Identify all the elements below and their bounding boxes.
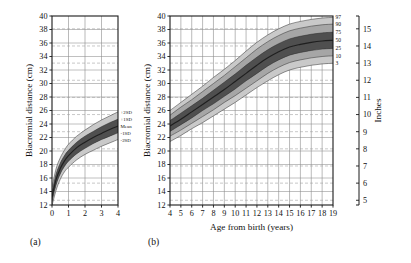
y-axis-title: Biacromial distance (cm) [142, 64, 152, 157]
y-axis-right-title: Inches [373, 98, 383, 122]
svg-text:12: 12 [39, 201, 47, 210]
curve-label: 25 [336, 45, 342, 51]
curve-label: 50 [336, 37, 342, 43]
svg-text:1: 1 [66, 209, 70, 218]
svg-text:15: 15 [285, 209, 293, 218]
svg-text:5: 5 [179, 209, 183, 218]
svg-text:11: 11 [363, 93, 371, 102]
y-axis-title: Biacromial distance (cm) [24, 64, 34, 157]
svg-text:32: 32 [157, 66, 165, 75]
svg-text:40: 40 [157, 12, 165, 21]
curve-label: 90 [336, 21, 342, 27]
svg-text:13: 13 [264, 209, 272, 218]
svg-text:3: 3 [99, 209, 103, 218]
svg-text:16: 16 [157, 174, 165, 183]
curve-label: 10 [336, 53, 342, 59]
svg-text:12: 12 [253, 209, 261, 218]
svg-text:10: 10 [363, 110, 371, 119]
svg-text:8: 8 [211, 209, 215, 218]
x-axis-title: Age from birth (years) [210, 222, 293, 232]
figure-biacromial-growth-charts: 12141618202224262830323436384001234Biacr… [0, 0, 411, 263]
svg-text:34: 34 [39, 52, 47, 61]
svg-text:9: 9 [222, 209, 226, 218]
svg-text:16: 16 [39, 174, 47, 183]
svg-text:14: 14 [157, 187, 165, 196]
panel-b: 1214161820222426283032343638404567891011… [118, 0, 411, 263]
panel-label: (b) [148, 237, 159, 248]
svg-text:6: 6 [363, 179, 367, 188]
svg-text:7: 7 [363, 162, 367, 171]
svg-text:40: 40 [39, 12, 47, 21]
svg-text:30: 30 [39, 79, 47, 88]
svg-text:5: 5 [363, 196, 367, 205]
svg-text:18: 18 [39, 160, 47, 169]
svg-text:14: 14 [363, 42, 371, 51]
svg-text:38: 38 [157, 25, 165, 34]
panel-b-plot: 1214161820222426283032343638404567891011… [118, 0, 411, 263]
curve-label: 75 [336, 29, 342, 35]
curve-label: 3 [336, 60, 339, 66]
svg-text:15: 15 [363, 25, 371, 34]
svg-text:12: 12 [363, 76, 371, 85]
svg-text:19: 19 [329, 209, 337, 218]
svg-text:20: 20 [39, 147, 47, 156]
svg-text:7: 7 [201, 209, 205, 218]
svg-text:8: 8 [363, 145, 367, 154]
curve-label: 97 [336, 14, 342, 20]
svg-text:14: 14 [39, 187, 47, 196]
svg-text:18: 18 [157, 160, 165, 169]
svg-text:24: 24 [39, 120, 47, 129]
svg-text:9: 9 [363, 128, 367, 137]
svg-text:24: 24 [157, 120, 165, 129]
svg-text:28: 28 [157, 93, 165, 102]
svg-text:28: 28 [39, 93, 47, 102]
svg-text:30: 30 [157, 79, 165, 88]
svg-text:18: 18 [318, 209, 326, 218]
svg-text:12: 12 [157, 201, 165, 210]
panel-label: (a) [30, 237, 41, 248]
svg-text:36: 36 [39, 39, 47, 48]
svg-text:38: 38 [39, 25, 47, 34]
svg-text:26: 26 [39, 106, 47, 115]
svg-text:11: 11 [242, 209, 250, 218]
svg-text:17: 17 [307, 209, 315, 218]
svg-text:2: 2 [83, 209, 87, 218]
svg-text:10: 10 [231, 209, 239, 218]
svg-text:20: 20 [157, 147, 165, 156]
svg-text:34: 34 [157, 52, 165, 61]
svg-text:36: 36 [157, 39, 165, 48]
svg-text:0: 0 [50, 209, 54, 218]
svg-text:14: 14 [275, 209, 283, 218]
svg-text:26: 26 [157, 106, 165, 115]
svg-text:22: 22 [157, 133, 165, 142]
svg-text:6: 6 [190, 209, 194, 218]
svg-text:4: 4 [168, 209, 172, 218]
svg-text:32: 32 [39, 66, 47, 75]
svg-text:22: 22 [39, 133, 47, 142]
svg-text:13: 13 [363, 59, 371, 68]
svg-text:16: 16 [296, 209, 304, 218]
